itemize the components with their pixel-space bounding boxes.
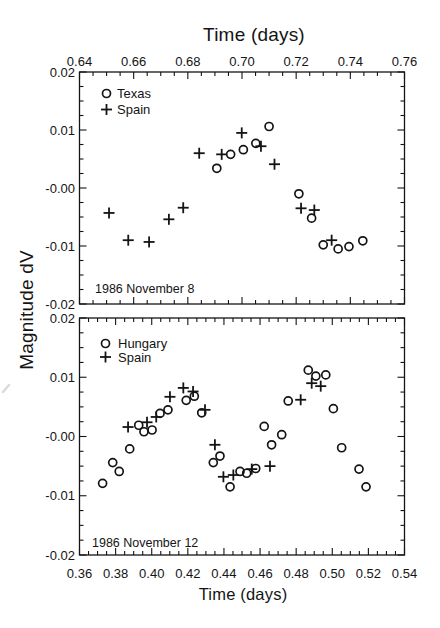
data-point-circle [115,467,123,475]
series-spain [123,378,327,483]
x-tick-label: 0.68 [175,54,200,69]
legend-circle-marker [103,90,111,98]
data-point-circle [239,146,247,154]
y-tick-label: 0.01 [50,123,75,138]
x-tick-label: 0.44 [211,566,236,581]
data-point-circle [322,371,330,379]
x-tick-label: 0.46 [247,566,272,581]
y-tick-label: -0.00 [45,181,75,196]
y-tick-label: 0.02 [50,311,75,326]
data-point-circle [334,245,342,253]
x-tick-label: 0.70 [229,54,254,69]
x-tick-label: 0.36 [67,566,92,581]
data-point-circle [278,431,286,439]
data-point-circle [312,372,320,380]
data-point-circle [226,483,234,491]
bottom-x-axis-title: Time (days) [199,585,288,604]
data-point-plus [296,203,307,214]
data-point-circle [284,397,292,405]
data-point-plus [163,214,174,225]
data-point-circle [345,243,353,251]
data-point-plus [151,411,162,422]
data-point-circle [126,445,134,453]
data-point-circle [164,406,172,414]
data-point-plus [123,235,134,246]
data-point-circle [295,190,303,198]
legend-label: Spain [117,102,150,117]
y-tick-label: -0.02 [45,297,75,312]
y-tick-label: -0.00 [45,429,75,444]
data-point-plus [104,207,115,218]
legend-label: Spain [118,350,151,365]
y-tick-label: 0.02 [50,65,75,80]
scan-artifact-smudge [3,385,9,392]
figure-page: Time (days) Magnitude dV 0.640.660.680.7… [0,0,440,628]
series-texas [213,123,367,253]
data-point-circle [216,452,224,460]
data-point-circle [268,441,276,449]
data-point-plus [236,127,247,138]
x-tick-label: 0.50 [320,566,345,581]
bottom-panel: 0.360.380.400.420.440.460.480.500.520.54… [45,311,417,581]
legend-circle-marker [102,340,110,348]
data-point-plus [199,404,210,415]
date-annotation: 1986 November 12 [92,536,198,550]
data-point-circle [265,123,273,131]
data-point-circle [304,366,312,374]
data-point-plus [295,394,306,405]
x-tick-label: 0.40 [139,566,164,581]
data-point-circle [329,405,337,413]
legend-label: Texas [117,86,151,101]
x-tick-label: 0.74 [338,54,363,69]
data-point-circle [319,241,327,249]
x-tick-label: 0.48 [284,566,309,581]
data-point-circle [109,459,117,467]
data-point-circle [190,392,198,400]
data-point-plus [178,202,189,213]
data-point-circle [362,483,370,491]
data-point-circle [227,150,235,158]
data-point-circle [209,459,217,467]
data-point-plus [228,470,239,481]
data-point-circle [355,465,363,473]
data-point-circle [148,426,156,434]
data-point-plus [194,148,205,159]
data-point-circle [213,164,221,172]
top-legend: TexasSpain [101,86,151,117]
x-tick-label: 0.66 [121,54,146,69]
x-tick-label: 0.52 [356,566,381,581]
y-tick-label: -0.02 [45,548,75,563]
data-point-plus [178,382,189,393]
data-point-plus [269,159,280,170]
x-tick-label: 0.38 [103,566,128,581]
x-tick-label: 0.42 [175,566,200,581]
data-point-plus [216,149,227,160]
scatter-plot-canvas: 0.640.660.680.700.720.740.760.020.01-0.0… [0,0,440,628]
data-point-plus [218,471,229,482]
data-point-circle [260,422,268,430]
x-tick-label: 0.72 [284,54,309,69]
data-point-plus [144,236,155,247]
data-point-plus [164,391,175,402]
series-hungary [99,366,370,491]
y-tick-label: 0.01 [50,370,75,385]
data-point-circle [99,479,107,487]
data-point-circle [182,396,190,404]
date-annotation: 1986 November 8 [95,282,194,296]
top-panel: 0.640.660.680.700.720.740.760.020.01-0.0… [45,54,417,312]
legend-plus-marker [101,104,112,115]
y-tick-label: -0.01 [45,488,75,503]
bottom-legend: HungarySpain [100,336,168,365]
y-axis-title: Magnitude dV [16,250,38,370]
data-point-plus [209,439,220,450]
top-x-axis-title: Time (days) [203,24,305,46]
data-point-circle [359,237,367,245]
data-point-circle [140,428,148,436]
series-spain [104,127,338,247]
data-point-plus [188,386,199,397]
y-tick-label: -0.01 [45,239,75,254]
legend-plus-marker [100,352,111,363]
data-point-plus [264,461,275,472]
data-point-plus [255,141,266,152]
data-point-plus [123,422,134,433]
